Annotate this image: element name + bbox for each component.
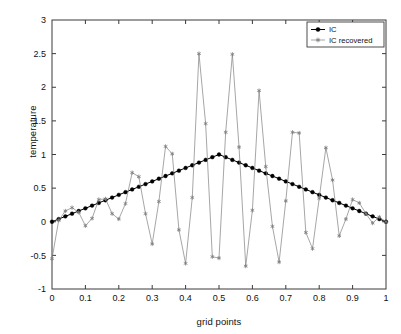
x-tick-label: 0.8 xyxy=(313,293,326,303)
y-tick-label: -0.5 xyxy=(30,251,46,261)
y-tick-label: 0 xyxy=(41,217,46,227)
data-point xyxy=(157,177,161,181)
data-point xyxy=(337,201,341,205)
y-tick-label: 2.5 xyxy=(33,49,46,59)
data-point xyxy=(63,214,67,218)
data-point xyxy=(130,188,134,192)
data-point xyxy=(277,177,281,181)
data-point xyxy=(70,212,74,216)
data-point xyxy=(117,193,121,197)
data-point xyxy=(230,158,234,162)
data-point xyxy=(217,153,221,157)
data-point xyxy=(164,174,168,178)
data-point xyxy=(357,209,361,213)
x-tick-label: 0.9 xyxy=(346,293,359,303)
legend-label-0: IC xyxy=(329,25,337,34)
legend-label-1: IC recovered xyxy=(329,36,372,45)
data-point xyxy=(257,169,261,173)
data-point xyxy=(344,204,348,208)
data-point xyxy=(291,182,295,186)
data-point xyxy=(50,220,54,224)
data-point xyxy=(197,161,201,165)
data-point xyxy=(304,188,308,192)
data-point xyxy=(110,196,114,200)
y-tick-label: -1 xyxy=(38,284,46,294)
data-point xyxy=(271,174,275,178)
data-point xyxy=(144,182,148,186)
x-tick-label: 0.6 xyxy=(246,293,259,303)
data-point xyxy=(324,196,328,200)
data-point xyxy=(311,190,315,194)
data-point xyxy=(204,158,208,162)
x-tick-label: 0.4 xyxy=(179,293,192,303)
x-axis-tick-labels: 00.10.20.30.40.50.60.70.80.91 xyxy=(49,293,388,303)
data-point xyxy=(90,204,94,208)
x-tick-label: 0.3 xyxy=(146,293,159,303)
y-tick-label: 2 xyxy=(41,82,46,92)
data-point xyxy=(284,180,288,184)
data-point xyxy=(264,171,268,175)
data-point xyxy=(84,206,88,210)
data-point xyxy=(251,166,255,170)
data-point xyxy=(331,198,335,202)
x-tick-label: 0.5 xyxy=(213,293,226,303)
chart-figure: 00.10.20.30.40.50.60.70.80.91 -1-0.500.5… xyxy=(0,0,401,334)
data-point xyxy=(371,214,375,218)
data-point xyxy=(244,163,248,167)
x-tick-label: 1 xyxy=(383,293,388,303)
x-tick-label: 0.2 xyxy=(113,293,126,303)
data-point xyxy=(210,155,214,159)
x-tick-label: 0 xyxy=(49,293,54,303)
data-point xyxy=(237,161,241,165)
y-tick-label: 3 xyxy=(41,15,46,25)
data-point xyxy=(184,166,188,170)
data-point xyxy=(177,169,181,173)
data-point xyxy=(297,185,301,189)
data-point xyxy=(124,190,128,194)
y-tick-label: 1 xyxy=(41,150,46,160)
legend-marker-0 xyxy=(316,27,320,31)
chart-legend: ICIC recovered xyxy=(307,22,384,47)
data-point xyxy=(150,180,154,184)
x-tick-label: 0.1 xyxy=(79,293,92,303)
x-axis-label: grid points xyxy=(52,316,386,327)
x-tick-label: 0.7 xyxy=(280,293,293,303)
data-point xyxy=(351,206,355,210)
chart-canvas: 00.10.20.30.40.50.60.70.80.91 -1-0.500.5… xyxy=(0,0,401,334)
y-axis-label: temperature xyxy=(27,72,38,192)
